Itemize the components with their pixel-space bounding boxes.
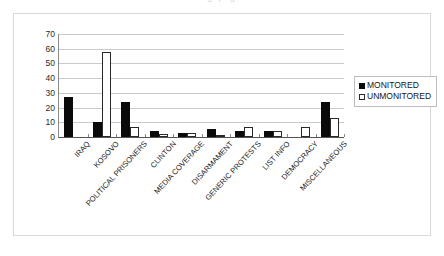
bar-group [259,34,288,137]
x-axis-category-label: CLINTON [149,140,177,169]
bar-unmonitored [130,127,139,137]
x-axis-category-label: GENERIC PROTESTS [204,140,263,202]
y-axis-tick-label: 50 [46,59,55,68]
y-axis-tick-label: 20 [46,103,55,112]
bar-unmonitored [216,135,225,137]
bar-monitored [178,133,187,137]
y-axis-tick-label: 70 [46,30,55,39]
bar-unmonitored [301,127,310,137]
bar-group [59,34,88,137]
bar-group [287,34,316,137]
bar-unmonitored [330,118,339,137]
bar-monitored [321,102,330,137]
bar-monitored [235,131,244,137]
x-axis-category-label: KOSOVO [92,140,120,169]
y-axis-tick-label: 0 [50,133,55,142]
legend-swatch-icon [359,94,365,100]
plot-area: 010203040506070 [58,34,344,138]
bar-monitored [93,122,102,137]
bar-monitored [64,97,73,137]
bar-group [230,34,259,137]
legend-item: MONITORED [359,80,431,91]
x-axis-labels: IRAQKOSOVOPOLITICAL PRISONERSCLINTONMEDI… [58,140,348,226]
bar-group [316,34,345,137]
bar-group [145,34,174,137]
legend-label: UNMONITORED [367,91,431,102]
bar-unmonitored [102,52,111,137]
chart-frame: 010203040506070 IRAQKOSOVOPOLITICAL PRIS… [13,13,431,236]
bar-group [173,34,202,137]
y-axis-tick-label: 30 [46,89,55,98]
y-axis-tick-label: 60 [46,44,55,53]
bar-unmonitored [244,127,253,137]
x-axis-tick [344,134,345,137]
y-axis-tick-label: 10 [46,118,55,127]
bar-monitored [207,129,216,137]
bar-monitored [264,131,273,137]
bar-group [116,34,145,137]
y-axis-tick-label: 40 [46,74,55,83]
bar-monitored [150,131,159,137]
legend-item: UNMONITORED [359,91,431,102]
legend-swatch-icon [359,83,365,89]
legend-label: MONITORED [367,80,419,91]
bar-group [88,34,117,137]
x-axis-category-label: POLITICAL PRISONERS [85,140,149,208]
chart-legend: MONITOREDUNMONITORED [354,76,437,107]
x-axis-category-label: IRAQ [74,140,92,159]
clipped-title-remnant: g p g [0,0,444,2]
bar-unmonitored [159,134,168,137]
bar-group [202,34,231,137]
bar-unmonitored [273,131,282,137]
bar-unmonitored [187,133,196,137]
bar-monitored [121,102,130,137]
